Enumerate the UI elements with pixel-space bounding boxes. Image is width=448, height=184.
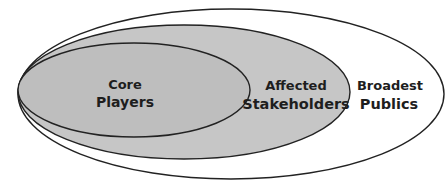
core-players-label-line1: Core: [108, 77, 142, 92]
affected-stakeholders-label-line1: Affected: [265, 78, 326, 93]
stakeholder-ellipse-diagram: Core Players Affected Stakeholders Broad…: [0, 0, 448, 184]
core-players-label-line2: Players: [96, 94, 154, 110]
broadest-publics-label-line1: Broadest: [357, 78, 423, 93]
affected-stakeholders-label-line2: Stakeholders: [242, 96, 350, 112]
broadest-publics-label-line2: Publics: [360, 96, 419, 112]
